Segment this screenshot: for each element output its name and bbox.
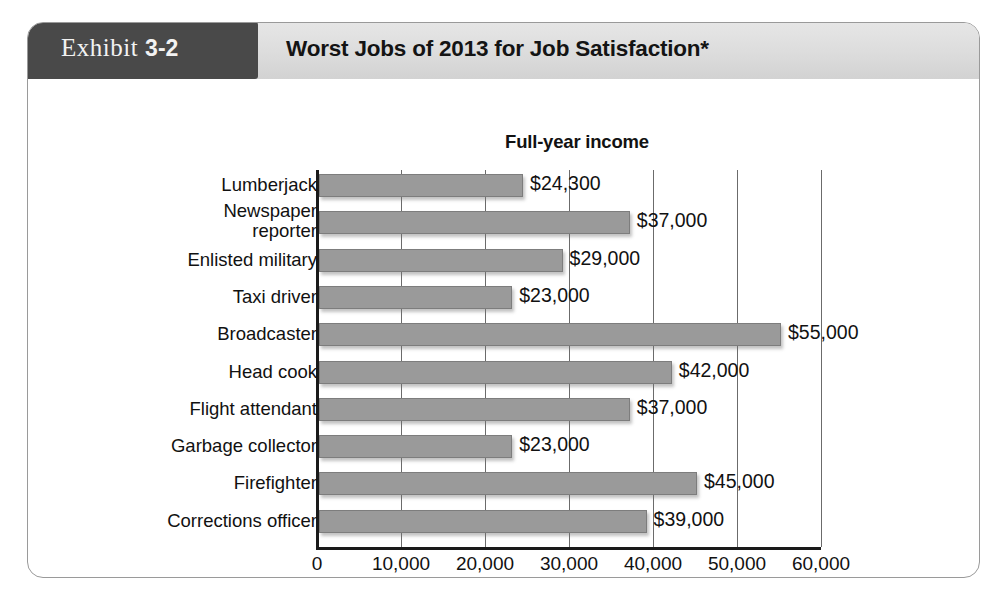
x-axis-line [316, 547, 821, 550]
bar-row: $29,000 [319, 249, 563, 272]
x-tick-label: 10,000 [372, 553, 430, 575]
x-tick-label: 30,000 [540, 553, 598, 575]
bar-value-label: $55,000 [788, 321, 859, 344]
bar [319, 361, 672, 384]
bar [319, 510, 647, 533]
x-tick-label: 0 [312, 553, 323, 575]
exhibit-tab-number: 3-2 [145, 35, 178, 61]
bar-value-label: $23,000 [519, 433, 590, 456]
bar-row: $37,000 [319, 211, 630, 234]
category-label: Newspaperreporter [223, 201, 317, 240]
bar-value-label: $45,000 [704, 470, 775, 493]
x-tick-label: 20,000 [456, 553, 514, 575]
bar [319, 174, 523, 197]
bar-value-label: $29,000 [570, 247, 641, 270]
chart-area: Full-year income 010,00020,00030,00040,0… [28, 79, 980, 577]
category-label: Garbage collector [171, 436, 317, 455]
gridline-60000 [821, 170, 822, 547]
category-label-line: Newspaper [223, 201, 317, 221]
bar-value-label: $24,300 [530, 172, 601, 195]
exhibit-tab-word: Exhibit [61, 34, 138, 61]
bar-value-label: $42,000 [679, 359, 750, 382]
exhibit-number-tab: Exhibit3-2 [28, 22, 258, 79]
category-label-line: reporter [223, 221, 317, 241]
bar-value-label: $23,000 [519, 284, 590, 307]
category-label: Broadcaster [217, 324, 317, 343]
category-label: Lumberjack [221, 175, 317, 194]
exhibit-title: Worst Jobs of 2013 for Job Satisfaction* [286, 36, 709, 62]
bar-row: $42,000 [319, 361, 672, 384]
bar-value-label: $37,000 [637, 209, 708, 232]
bar [319, 249, 563, 272]
bar-value-label: $37,000 [637, 396, 708, 419]
bar-chart-plot: 010,00020,00030,00040,00050,00060,000$24… [28, 79, 980, 577]
x-tick-label: 50,000 [708, 553, 766, 575]
bar [319, 435, 512, 458]
bar-value-label: $39,000 [654, 508, 725, 531]
bar-row: $55,000 [319, 323, 781, 346]
bar-row: $24,300 [319, 174, 523, 197]
exhibit-page: Worst Jobs of 2013 for Job Satisfaction*… [0, 0, 1006, 609]
bar [319, 472, 697, 495]
bar [319, 286, 512, 309]
category-label: Taxi driver [233, 287, 317, 306]
bar [319, 398, 630, 421]
category-label: Corrections officer [167, 511, 317, 530]
exhibit-tab-text: Exhibit3-2 [61, 34, 178, 62]
bar-row: $23,000 [319, 286, 512, 309]
category-label: Firefighter [234, 473, 317, 492]
x-tick-label: 40,000 [624, 553, 682, 575]
category-label: Enlisted military [187, 250, 317, 269]
exhibit-card: Worst Jobs of 2013 for Job Satisfaction*… [27, 22, 980, 578]
bar-row: $39,000 [319, 510, 647, 533]
bar-row: $45,000 [319, 472, 697, 495]
bar [319, 323, 781, 346]
bar [319, 211, 630, 234]
category-label: Flight attendant [189, 399, 317, 418]
x-tick-label: 60,000 [792, 553, 850, 575]
bar-row: $23,000 [319, 435, 512, 458]
category-label: Head cook [229, 362, 317, 381]
bar-row: $37,000 [319, 398, 630, 421]
